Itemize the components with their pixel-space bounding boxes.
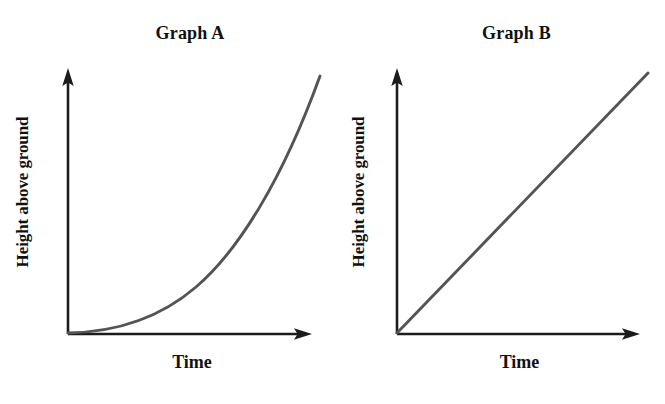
graph-panel-a: Graph A Height above ground Time bbox=[0, 0, 332, 404]
graph-b-plot-area bbox=[332, 0, 665, 404]
graph-b-data-curve bbox=[397, 73, 648, 333]
graph-a-data-curve bbox=[68, 76, 320, 333]
graph-b-x-axis-label: Time bbox=[332, 352, 665, 373]
graph-a-plot-area bbox=[0, 0, 332, 404]
graph-panel-b: Graph B Height above ground Time bbox=[332, 0, 665, 404]
graph-a-x-axis-label: Time bbox=[0, 352, 332, 373]
figure-root: Graph A Height above ground Time Graph B… bbox=[0, 0, 665, 404]
